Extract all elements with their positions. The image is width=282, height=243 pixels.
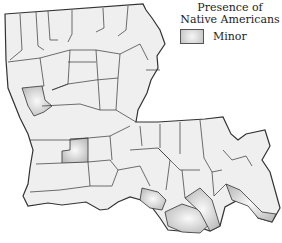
legend-title: Presence of Native Americans [178, 2, 282, 26]
legend-label-minor: Minor [213, 30, 247, 43]
map-figure: Presence of Native Americans Minor [0, 0, 282, 243]
legend-swatch-minor [180, 29, 204, 44]
legend-title-line2: Native Americans [178, 14, 282, 26]
legend-item-minor: Minor [180, 29, 247, 44]
